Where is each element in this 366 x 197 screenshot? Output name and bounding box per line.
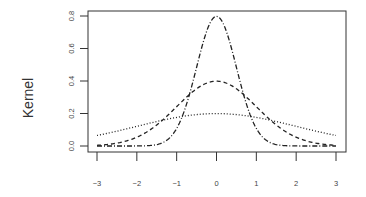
series-line-dashed [97, 81, 336, 145]
x-tick-label: −2 [133, 179, 142, 188]
x-axis: −3−2−10123 [93, 152, 338, 188]
series-line-dotted [97, 114, 336, 136]
y-tick-label: 0.4 [67, 76, 76, 86]
y-tick-label: 0.8 [67, 11, 76, 21]
y-axis: 0.00.20.40.60.8 [67, 11, 88, 151]
x-tick-label: 1 [254, 179, 258, 188]
y-tick-label: 0.0 [67, 141, 76, 151]
x-tick-label: 3 [334, 179, 338, 188]
x-tick-label: −1 [172, 179, 181, 188]
y-tick-label: 0.6 [67, 43, 76, 53]
x-tick-label: 0 [214, 179, 218, 188]
x-tick-label: 2 [294, 179, 298, 188]
kernel-chart: 0.00.20.40.60.8 −3−2−10123 [0, 0, 366, 197]
series-line-dotdash [97, 16, 336, 146]
y-axis-label: Kernel [20, 68, 36, 128]
x-tick-label: −3 [93, 179, 102, 188]
y-tick-label: 0.2 [67, 108, 76, 118]
series-group [97, 16, 336, 146]
